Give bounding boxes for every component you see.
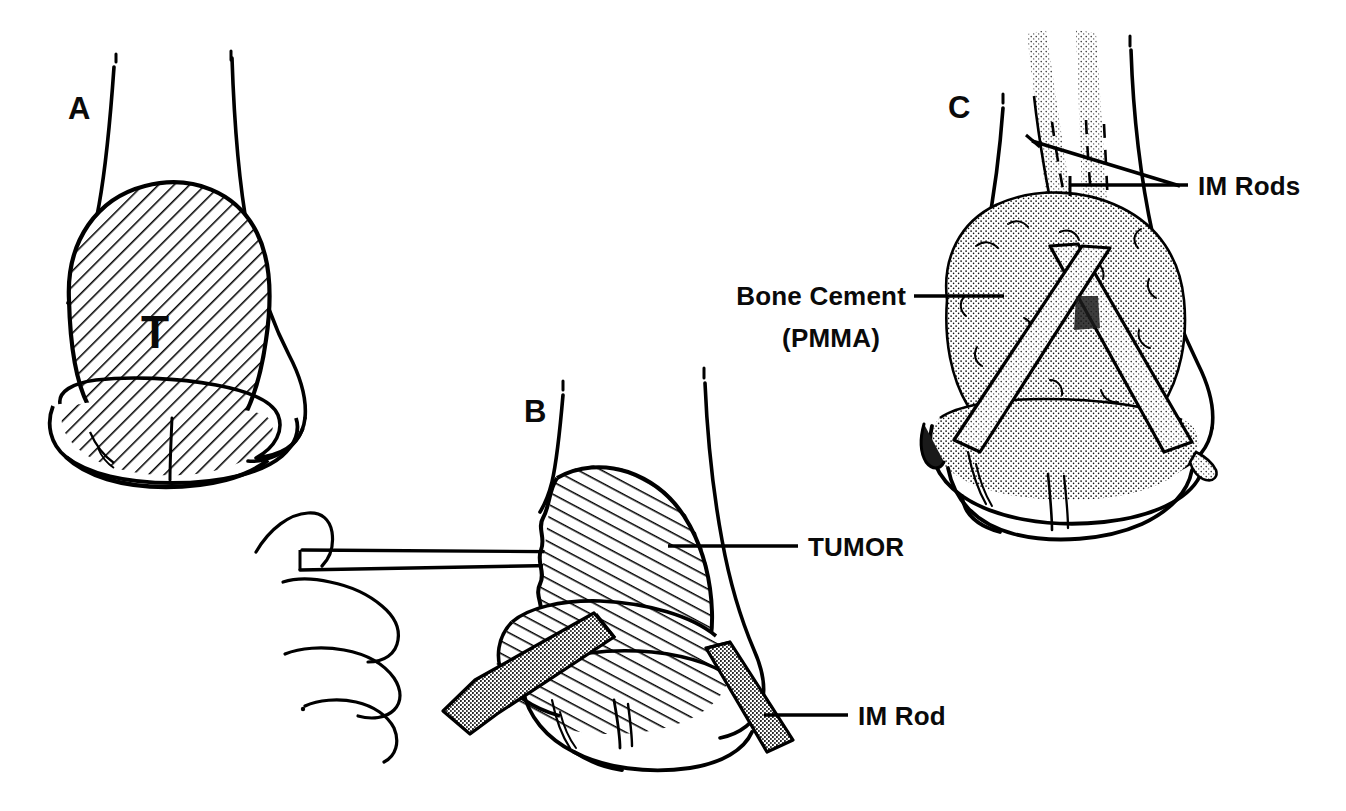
surgical-figure: T A xyxy=(0,0,1346,811)
panel-letter-a: A xyxy=(68,91,91,126)
panel-letter-c: C xyxy=(948,90,971,125)
im-rods-label: IM Rods xyxy=(1198,171,1301,201)
figure-canvas: T A xyxy=(0,0,1346,811)
panel-letter-b: B xyxy=(524,394,547,429)
bone-cement-label-line2: (PMMA) xyxy=(782,323,880,353)
tumor-initial-letter: T xyxy=(141,306,169,358)
tumor-label: TUMOR xyxy=(808,532,904,562)
bone-cement-label-line1: Bone Cement xyxy=(736,281,906,311)
im-rod-label: IM Rod xyxy=(858,701,946,731)
